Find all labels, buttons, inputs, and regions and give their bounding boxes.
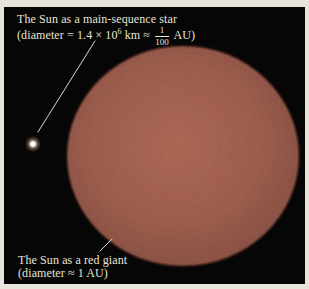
diameter-equation-open: (diameter = 1.4 × 10 (17, 28, 118, 42)
photo-panel: The Sun as a main-sequence star (diamete… (4, 7, 305, 284)
main-sequence-label: The Sun as a main-sequence star (diamete… (17, 13, 195, 47)
red-giant-leader-line (100, 239, 112, 251)
fraction-denominator: 100 (155, 37, 169, 47)
figure-page: The Sun as a main-sequence star (diamete… (0, 0, 309, 289)
main-sequence-label-line2: (diameter = 1.4 × 106 km ≈ 1100 AU) (17, 26, 195, 47)
red-giant-label: The Sun as a red giant (diameter ≈ 1 AU) (18, 254, 127, 280)
fraction-numerator: 1 (155, 26, 169, 37)
diameter-equation-close: AU) (171, 28, 195, 42)
fraction-one-hundredth: 1100 (155, 26, 169, 47)
sun-size-comparison-illustration (4, 7, 305, 284)
red-giant-label-line2: (diameter ≈ 1 AU) (18, 267, 127, 280)
main-sequence-sun-dot (31, 142, 35, 146)
main-sequence-label-line1: The Sun as a main-sequence star (17, 13, 195, 26)
red-giant-grain-texture (67, 46, 299, 266)
diameter-equation-mid: km ≈ (122, 28, 154, 42)
